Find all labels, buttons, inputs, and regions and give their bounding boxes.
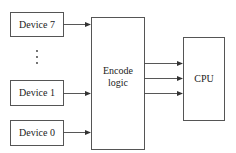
device-0-block: Device 0 [11, 121, 64, 146]
device-7-label: Device 7 [19, 19, 55, 30]
encoder-label-line1: Encode [103, 65, 134, 76]
arrow-device1-to-encoder [64, 91, 92, 96]
cpu-block: CPU [184, 38, 225, 121]
device-0-label: Device 0 [19, 127, 55, 138]
arrow-device7-to-encoder [64, 22, 92, 27]
arrows-encoder-to-cpu [145, 61, 184, 96]
device-7-block: Device 7 [11, 13, 64, 37]
encoder-diagram: Device 7 Device 1 Device 0 Encode logic [0, 0, 236, 153]
encode-logic-block: Encode logic [92, 18, 145, 150]
device-1-block: Device 1 [11, 81, 64, 106]
encoder-label-line2: logic [108, 77, 129, 88]
ellipsis-dots [36, 50, 38, 64]
cpu-label: CPU [194, 73, 214, 84]
device-1-label: Device 1 [19, 87, 55, 98]
arrow-device0-to-encoder [64, 130, 92, 135]
